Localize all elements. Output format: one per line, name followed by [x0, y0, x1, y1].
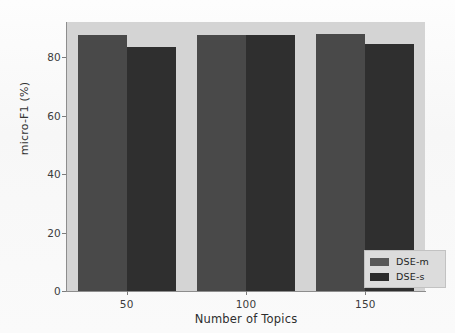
bar-dse-m-100 [197, 35, 246, 291]
y-tick-mark [62, 174, 66, 175]
bar-dse-m-50 [78, 35, 127, 291]
legend-item-dse-m: DSE-m [370, 255, 440, 268]
legend-swatch-icon-dse-s [370, 273, 389, 281]
y-axis-label: micro-F1 (%) [18, 59, 31, 179]
bar-dse-s-100 [246, 35, 295, 291]
y-tick-label: 0 [21, 285, 61, 297]
y-tick-mark [62, 233, 66, 234]
bar-group [186, 22, 305, 291]
y-tick-label: 20 [21, 227, 61, 239]
bar-chart-figure: 02040608050100150 micro-F1 (%) Number of… [0, 0, 455, 333]
legend-item-dse-s: DSE-s [370, 270, 440, 283]
y-tick-mark [62, 57, 66, 58]
legend-label-dse-s: DSE-s [396, 271, 425, 282]
y-axis-line [66, 22, 67, 292]
bar-dse-s-50 [127, 47, 176, 291]
legend-swatch-icon-dse-m [370, 258, 389, 266]
x-tick-label: 50 [97, 298, 157, 310]
x-tick-label: 100 [216, 298, 276, 310]
legend: DSE-m DSE-s [364, 250, 446, 288]
x-tick-mark [365, 291, 366, 295]
bar-dse-m-150 [316, 34, 365, 291]
x-tick-mark [246, 291, 247, 295]
legend-label-dse-m: DSE-m [396, 256, 429, 267]
y-tick-mark [62, 291, 66, 292]
x-tick-label: 150 [335, 298, 395, 310]
x-axis-label: Number of Topics [67, 312, 425, 326]
bar-group [67, 22, 186, 291]
x-tick-mark [127, 291, 128, 295]
y-tick-mark [62, 116, 66, 117]
